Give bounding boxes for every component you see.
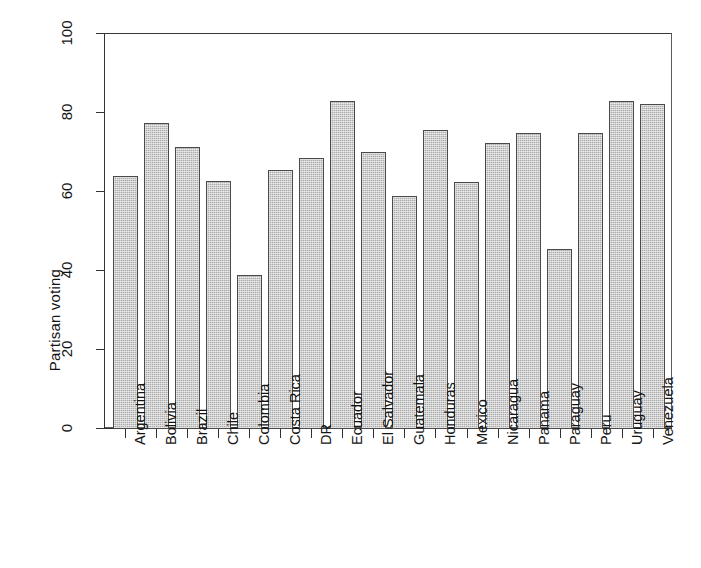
x-axis-tick: [435, 429, 436, 438]
x-axis-category-label: Nicaragua: [505, 379, 522, 445]
x-axis-tick: [591, 429, 592, 438]
x-axis-tick: [560, 429, 561, 438]
x-axis-category-label: Bolivia: [163, 402, 180, 445]
x-axis-category-label: Paraguay: [567, 383, 584, 445]
x-axis-tick: [280, 429, 281, 438]
bar: [175, 147, 200, 429]
x-axis-tick: [498, 429, 499, 438]
bar: [609, 101, 634, 429]
x-axis-category-label: Uruguay: [629, 390, 646, 445]
x-axis-tick: [653, 429, 654, 438]
x-axis-tick: [249, 429, 250, 438]
x-axis-category-label: Mexico: [474, 399, 491, 445]
x-axis-tick: [218, 429, 219, 438]
x-axis-category-label: Panama: [536, 391, 553, 445]
x-axis-tick: [311, 429, 312, 438]
x-axis-tick: [187, 429, 188, 438]
bar: [330, 101, 355, 429]
x-axis-category-label: Chile: [225, 412, 242, 445]
x-axis-category-label: DR: [318, 424, 335, 445]
x-axis-category-label: Argentina: [132, 383, 149, 445]
x-axis-category-label: Brazil: [194, 409, 211, 445]
bars-layer: [0, 0, 701, 568]
x-axis-category-label: Ecuador: [349, 391, 366, 445]
x-axis-tick: [622, 429, 623, 438]
x-axis-category-label: Colombia: [256, 384, 273, 445]
x-axis-category-label: Venezuela: [660, 377, 677, 445]
x-axis-tick: [156, 429, 157, 438]
x-axis-category-label: Peru: [598, 414, 615, 445]
x-axis-tick: [467, 429, 468, 438]
x-axis-category-label: Guatemala: [411, 374, 428, 445]
bar: [206, 181, 231, 429]
x-axis-tick: [529, 429, 530, 438]
x-axis-tick: [404, 429, 405, 438]
x-axis-tick: [125, 429, 126, 438]
x-axis-tick: [373, 429, 374, 438]
x-axis-category-label: El Salvador: [380, 371, 397, 445]
x-axis-tick: [342, 429, 343, 438]
x-axis-category-label: Honduras: [442, 382, 459, 445]
bar-chart: Partisan voting 020406080100 ArgentinaBo…: [0, 0, 701, 568]
x-axis-category-label: Costa Rica: [287, 374, 304, 445]
